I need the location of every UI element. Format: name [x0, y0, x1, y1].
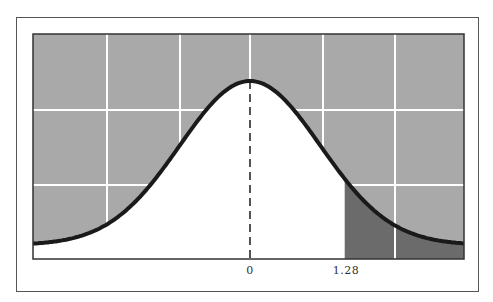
tick-label-zero: 0	[246, 264, 254, 277]
tick-label-critical: 1.28	[333, 264, 360, 277]
normal-curve-chart	[0, 0, 493, 302]
